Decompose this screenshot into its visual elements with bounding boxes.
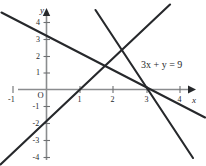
y-tick-label-2: 2 <box>36 53 40 61</box>
x-tick-label-neg1: -1 <box>8 96 15 104</box>
y-tick-label-neg4: -4 <box>33 154 40 162</box>
x-tick-label-4: 4 <box>178 96 182 104</box>
y-tick-label-1: 1 <box>36 69 40 77</box>
y-tick-label-4: 4 <box>36 19 40 27</box>
equation-text: 3x + y = 9 <box>141 59 182 70</box>
y-axis <box>43 8 50 160</box>
x-tick-label-2: 2 <box>111 96 115 104</box>
origin-label: O <box>38 91 44 100</box>
equation-label-3x-plus-y-9: 3x + y = 9 <box>141 60 182 70</box>
line-3x-plus-y-9 <box>96 10 194 158</box>
y-tick-label-neg1: -1 <box>33 103 40 111</box>
y-tick-label-neg3: -3 <box>33 137 40 145</box>
y-tick-label-3: 3 <box>36 36 40 44</box>
y-axis-label: y <box>40 6 44 15</box>
x-tick-label-1: 1 <box>78 96 82 104</box>
line-graph-figure: -1 1 2 3 4 4 3 2 1 -1 -2 -3 -4 O y x 3x … <box>0 0 206 166</box>
x-axis <box>18 86 196 94</box>
x-axis-label: x <box>192 96 196 105</box>
y-tick-label-neg2: -2 <box>33 120 40 128</box>
plot-canvas <box>0 0 206 166</box>
x-tick-label-3: 3 <box>145 96 149 104</box>
